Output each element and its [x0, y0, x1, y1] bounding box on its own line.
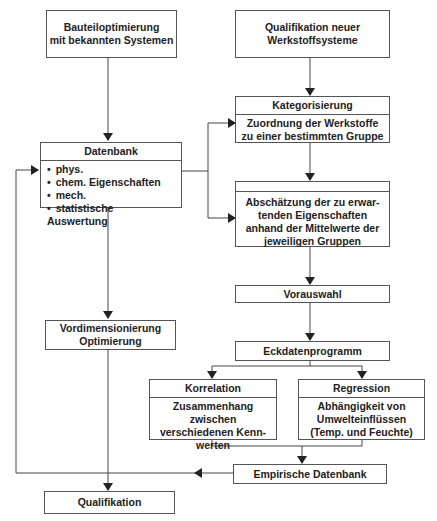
- list-item: phys.: [47, 163, 175, 176]
- box-text: anhand der Mittelwerte der: [238, 222, 387, 235]
- box-text: Empirische Datenbank: [253, 468, 366, 481]
- box-title: Regression: [299, 380, 424, 398]
- box-text: Vorauswahl: [283, 288, 341, 301]
- box-bauteiloptimierung: Bauteiloptimierung mit bekannten Systeme…: [46, 10, 177, 58]
- box-text: Eckdatenprogramm: [263, 345, 362, 358]
- box-title: Datenbank: [41, 143, 181, 161]
- box-text: Qualifikation neuer: [265, 21, 360, 34]
- box-regression: Regression Abhängigkeit von Umwelteinflü…: [298, 379, 425, 440]
- box-text: Umwelteinflüssen: [300, 413, 423, 426]
- box-text: Bauteiloptimierung: [64, 21, 160, 34]
- box-title: Korrelation: [150, 380, 276, 398]
- box-korrelation: Korrelation Zusammenhang zwischen versch…: [149, 379, 277, 440]
- box-datenbank: Datenbank phys. chem. Eigenschaften mech…: [40, 142, 182, 208]
- box-text: Optimierung: [79, 335, 141, 348]
- box-eckdatenprogramm: Eckdatenprogramm: [235, 341, 390, 361]
- box-text: Zusammenhang zwischen: [151, 400, 275, 426]
- box-text: mit bekannten Systemen: [50, 34, 174, 47]
- box-abschaetzung: Abschätzung der zu erwar- tenden Eigensc…: [235, 181, 390, 247]
- box-text: tenden Eigenschaften: [238, 209, 387, 222]
- box-title: Kategorisierung: [236, 97, 389, 115]
- list-item: statistische Auswertung: [47, 202, 175, 228]
- box-text: Abschätzung der zu erwar-: [238, 196, 387, 209]
- box-text: Werkstoffsysteme: [267, 34, 357, 47]
- box-qualifikation-neuer-werkstoffsysteme: Qualifikation neuer Werkstoffsysteme: [235, 10, 390, 58]
- box-vorauswahl: Vorauswahl: [235, 285, 390, 303]
- box-text: zu einer bestimmten Gruppe: [238, 130, 387, 143]
- box-empirische-datenbank: Empirische Datenbank: [233, 464, 387, 484]
- box-text: werten: [151, 439, 275, 452]
- box-vordimensionierung: Vordimensionierung Optimierung: [45, 320, 176, 350]
- box-text: Abhängigkeit von: [300, 400, 423, 413]
- box-text: Qualifikation: [78, 496, 142, 509]
- list-item: mech.: [47, 189, 175, 202]
- box-kategorisierung: Kategorisierung Zuordnung der Werkstoffe…: [235, 96, 390, 143]
- box-text: verschiedenen Kenn-: [151, 426, 275, 439]
- box-qualifikation: Qualifikation: [44, 491, 175, 514]
- box-text: (Temp. und Feuchte): [300, 426, 423, 439]
- list-item: chem. Eigenschaften: [47, 176, 175, 189]
- box-text: Zuordnung der Werkstoffe: [238, 117, 387, 130]
- box-text: jeweiligen Gruppen: [238, 235, 387, 248]
- box-text: Vordimensionierung: [60, 322, 161, 335]
- box-title: [236, 182, 389, 192]
